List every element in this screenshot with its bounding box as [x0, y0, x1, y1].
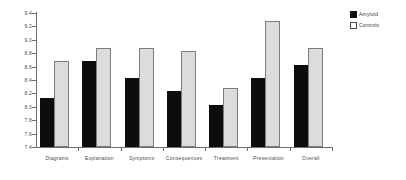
bar-group: Presentation: [247, 13, 289, 147]
bar-group: Treatment: [205, 13, 247, 147]
bar-controls: [54, 61, 69, 147]
bar-controls: [96, 48, 111, 147]
y-tick-label: 8.6: [24, 64, 32, 69]
bar-controls: [223, 88, 238, 147]
y-tick-label: 9.0: [24, 37, 32, 42]
y-tick-label: 7.8: [24, 118, 32, 123]
x-axis-label: Diagrams: [45, 155, 68, 161]
x-axis-label: Consequences: [166, 155, 202, 161]
bar-controls: [308, 48, 323, 147]
bar-controls: [139, 48, 154, 147]
x-axis-label: Overall: [302, 155, 320, 161]
x-axis-label: Presentation: [253, 155, 284, 161]
bar-group: Explanation: [78, 13, 120, 147]
bar-group: Symptoms: [121, 13, 163, 147]
legend-label: Controls: [359, 21, 379, 29]
plot-area: 9.49.29.08.88.68.48.28.07.87.67.4 Diagra…: [36, 13, 332, 147]
x-axis-label: Symptoms: [129, 155, 155, 161]
bar-group: Consequences: [163, 13, 205, 147]
x-tick-mark: [332, 147, 333, 151]
y-tick-label: 9.2: [24, 24, 32, 29]
x-tick-mark: [163, 147, 164, 151]
x-tick-mark: [78, 147, 79, 151]
bar-amyloid: [82, 61, 97, 147]
y-tick-label: 7.4: [24, 145, 32, 150]
x-tick-mark: [205, 147, 206, 151]
y-tick-label: 8.8: [24, 51, 32, 56]
x-tick-mark: [121, 147, 122, 151]
bar-amyloid: [251, 78, 266, 147]
bar-controls: [181, 51, 196, 147]
legend-item[interactable]: Amyloid: [350, 10, 379, 18]
bar-amyloid: [40, 98, 55, 147]
legend-item[interactable]: Controls: [350, 21, 379, 29]
y-tick-label: 8.4: [24, 78, 32, 83]
y-tick-label: 9.4: [24, 11, 32, 16]
chart-legend: AmyloidControls: [350, 10, 379, 32]
y-tick-label: 8.0: [24, 104, 32, 109]
bar-group: Diagrams: [36, 13, 78, 147]
bar-amyloid: [209, 105, 224, 147]
bar-amyloid: [167, 91, 182, 147]
x-tick-mark: [290, 147, 291, 151]
y-tick-label: 8.2: [24, 91, 32, 96]
bar-chart: 9.49.29.08.88.68.48.28.07.87.67.4 Diagra…: [0, 0, 406, 180]
y-tick-mark: [32, 147, 36, 148]
bar-amyloid: [294, 65, 309, 147]
bar-controls: [265, 21, 280, 147]
x-tick-mark: [247, 147, 248, 151]
bar-group: Overall: [290, 13, 332, 147]
y-tick-label: 7.6: [24, 131, 32, 136]
x-axis-line: [36, 147, 333, 148]
legend-label: Amyloid: [359, 10, 378, 18]
legend-swatch-icon: [350, 11, 357, 18]
x-axis-label: Treatment: [214, 155, 239, 161]
bar-amyloid: [125, 78, 140, 147]
x-axis-label: Explanation: [85, 155, 114, 161]
legend-swatch-icon: [350, 22, 357, 29]
